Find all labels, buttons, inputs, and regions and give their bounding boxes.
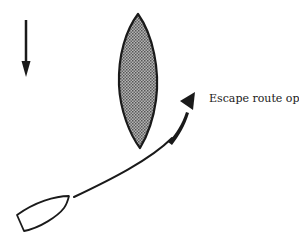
diagram-canvas (0, 0, 299, 245)
down-arrow-icon (22, 20, 31, 77)
escape-route-label: Escape route open (209, 92, 299, 105)
obstacle-shape (119, 14, 157, 148)
boat-outline (17, 196, 69, 231)
